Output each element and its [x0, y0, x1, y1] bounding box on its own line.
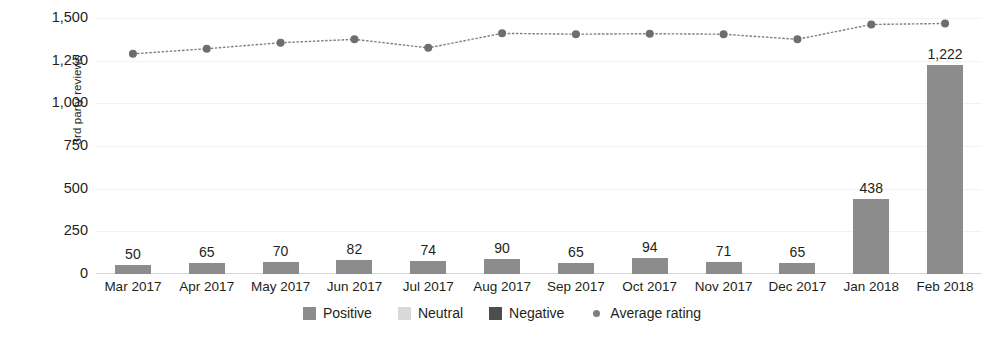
bar[interactable] — [484, 259, 520, 274]
bar[interactable] — [853, 199, 889, 274]
line-data-point[interactable] — [941, 19, 949, 27]
bar-value-label: 71 — [689, 244, 759, 258]
line-data-point[interactable] — [203, 45, 211, 53]
legend-swatch-icon — [398, 307, 411, 320]
bar[interactable] — [558, 263, 594, 274]
legend-item[interactable]: Average rating — [590, 306, 701, 320]
line-data-point[interactable] — [350, 35, 358, 43]
bar-value-label: 65 — [172, 245, 242, 259]
chart-container: 3rd party reviews 02505007501,0001,2501,… — [0, 0, 1004, 341]
y-axis-tick-label: 0 — [22, 266, 88, 281]
legend-item[interactable]: Positive — [303, 306, 372, 320]
plot-area — [96, 18, 982, 274]
bar[interactable] — [779, 263, 815, 274]
gridline — [96, 146, 982, 147]
bar-value-label: 74 — [393, 243, 463, 257]
line-data-point[interactable] — [498, 29, 506, 37]
y-axis-tick-label: 750 — [22, 138, 88, 153]
x-axis-tick-label: Feb 2018 — [900, 280, 990, 294]
y-axis-tick-labels: 02505007501,0001,2501,500 — [22, 0, 88, 341]
bar[interactable] — [115, 265, 151, 274]
gridline — [96, 231, 982, 232]
bar[interactable] — [706, 262, 742, 274]
bar[interactable] — [927, 65, 963, 274]
line-data-point[interactable] — [572, 30, 580, 38]
y-axis-tick-label: 500 — [22, 181, 88, 196]
legend-swatch-icon — [303, 307, 316, 320]
bar-value-label: 438 — [836, 181, 906, 195]
bar-value-label: 1,222 — [910, 47, 980, 61]
chart-legend: PositiveNeutralNegativeAverage rating — [0, 306, 1004, 320]
line-data-point[interactable] — [867, 20, 875, 28]
bar-value-label: 94 — [615, 240, 685, 254]
bar-value-label: 65 — [762, 245, 832, 259]
y-axis-tick-label: 1,500 — [22, 10, 88, 25]
legend-label: Negative — [509, 306, 564, 320]
gridline — [96, 18, 982, 19]
average-rating-polyline — [133, 23, 945, 53]
legend-dot-icon — [593, 310, 600, 317]
bar[interactable] — [336, 260, 372, 274]
line-data-point[interactable] — [720, 30, 728, 38]
y-axis-tick-label: 1,000 — [22, 95, 88, 110]
gridline — [96, 103, 982, 104]
legend-swatch-icon — [489, 307, 502, 320]
bar[interactable] — [410, 261, 446, 274]
legend-label: Positive — [323, 306, 372, 320]
line-data-point[interactable] — [646, 30, 654, 38]
line-data-point[interactable] — [277, 39, 285, 47]
gridline — [96, 61, 982, 62]
bar-value-label: 50 — [98, 247, 168, 261]
bar-value-label: 65 — [541, 245, 611, 259]
bar-value-label: 70 — [246, 244, 316, 258]
legend-label: Neutral — [418, 306, 463, 320]
bar-value-label: 90 — [467, 241, 537, 255]
line-data-point[interactable] — [424, 44, 432, 52]
bar[interactable] — [189, 263, 225, 274]
line-data-point[interactable] — [129, 50, 137, 58]
y-axis-tick-label: 1,250 — [22, 53, 88, 68]
line-data-point[interactable] — [793, 35, 801, 43]
legend-item[interactable]: Negative — [489, 306, 564, 320]
bar[interactable] — [632, 258, 668, 274]
bar[interactable] — [263, 262, 299, 274]
bar-value-label: 82 — [319, 242, 389, 256]
y-axis-tick-label: 250 — [22, 223, 88, 238]
legend-label: Average rating — [610, 306, 701, 320]
x-axis-baseline — [96, 273, 982, 274]
legend-item[interactable]: Neutral — [398, 306, 463, 320]
